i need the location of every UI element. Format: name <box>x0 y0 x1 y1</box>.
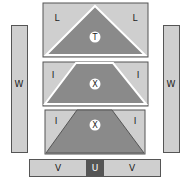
middle-left-corner-label: I <box>52 71 55 80</box>
bottom-left-label: V <box>55 164 61 173</box>
lower-center-label: X <box>90 120 101 131</box>
middle-center-label: X <box>90 79 101 90</box>
left-strip-label: W <box>15 80 24 89</box>
top-right-corner-label: L <box>132 14 137 23</box>
lower-left-corner-label: I <box>55 117 58 126</box>
middle-right-corner-label: I <box>137 71 140 80</box>
left-strip-w <box>11 25 28 153</box>
top-left-corner-label: L <box>54 14 59 23</box>
bottom-right-label: V <box>129 164 135 173</box>
right-strip-w <box>163 25 180 153</box>
top-center-label: T <box>90 32 101 43</box>
right-strip-label: W <box>167 80 176 89</box>
lower-right-corner-label: I <box>134 117 137 126</box>
bottom-center-label: U <box>92 164 99 173</box>
